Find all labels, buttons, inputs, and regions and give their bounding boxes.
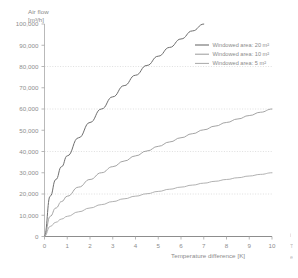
y-tick-label: 10,000 — [0, 212, 39, 219]
x-tick-label: 3 — [103, 242, 123, 249]
x-tick-label: 4 — [126, 242, 146, 249]
curve-windowed-area-5-m- — [45, 173, 273, 237]
curve-windowed-area-10-m- — [45, 109, 273, 237]
x-axis-title: Temperature difference [K] — [171, 252, 245, 260]
y-tick-label: 20,000 — [0, 190, 39, 197]
y-tick-label: 70,000 — [0, 84, 39, 91]
y-tick-label: 0 — [0, 233, 39, 240]
margin-note-line2: T — [290, 243, 293, 249]
y-tick-label: 90,000 — [0, 42, 39, 49]
x-tick-label: 10 — [262, 242, 282, 249]
x-tick-label: 6 — [171, 242, 191, 249]
margin-note-line1: i — [290, 232, 291, 238]
y-tick-label: 80,000 — [0, 63, 39, 70]
x-tick-label: 7 — [194, 242, 214, 249]
y-tick-label: 50,000 — [0, 127, 39, 134]
air-flow-chart: Air flow[m³/h] Temperature difference [K… — [0, 0, 298, 278]
legend-label: Windowed area: 20 m² — [213, 42, 270, 48]
legend-swatch-lines — [195, 45, 209, 63]
x-tick-label: 2 — [80, 242, 100, 249]
y-tick-label: 60,000 — [0, 105, 39, 112]
x-tick-label: 8 — [217, 242, 237, 249]
y-axis-title-line1: Air flow — [28, 8, 49, 15]
y-tick-label: 40,000 — [0, 148, 39, 155]
gridlines — [45, 67, 273, 195]
margin-note-line3: e — [290, 254, 293, 260]
y-tick-label: 100,000 — [0, 20, 39, 27]
legend-label: Windowed area: 10 m² — [213, 51, 270, 57]
curve-windowed-area-20-m- — [45, 24, 204, 237]
legend-label: Windowed area: 5 m² — [213, 60, 267, 66]
x-tick-label: 9 — [239, 242, 259, 249]
y-tick-label: 30,000 — [0, 169, 39, 176]
x-tick-label: 5 — [148, 242, 168, 249]
x-tick-label: 0 — [35, 242, 55, 249]
x-tick-label: 1 — [57, 242, 77, 249]
